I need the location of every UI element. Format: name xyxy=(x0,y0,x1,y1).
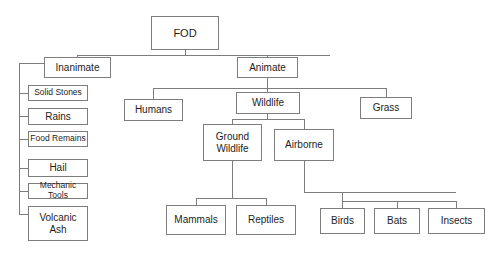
node-fod[interactable]: FOD xyxy=(151,16,219,50)
node-hail[interactable]: Hail xyxy=(28,159,88,177)
node-mechanic-tools[interactable]: Mechanic Tools xyxy=(28,183,88,199)
node-inanimate[interactable]: Inanimate xyxy=(44,57,111,78)
node-mammals[interactable]: Mammals xyxy=(166,205,226,235)
node-food-remains[interactable]: Food Remains xyxy=(28,131,88,147)
node-grass[interactable]: Grass xyxy=(360,97,412,119)
node-solid-stones[interactable]: Solid Stones xyxy=(28,85,88,101)
node-airborne[interactable]: Airborne xyxy=(274,129,334,161)
node-animate[interactable]: Animate xyxy=(237,57,298,78)
node-wildlife[interactable]: Wildlife xyxy=(236,92,300,114)
node-birds[interactable]: Birds xyxy=(320,208,365,234)
node-rains[interactable]: Rains xyxy=(28,108,88,125)
diagram-canvas: FOD Inanimate Animate Solid Stones Rains… xyxy=(0,0,495,253)
node-ground-wildlife[interactable]: Ground Wildlife xyxy=(203,124,262,161)
node-bats[interactable]: Bats xyxy=(374,208,420,234)
node-humans[interactable]: Humans xyxy=(124,99,183,121)
node-insects[interactable]: Insects xyxy=(428,208,485,234)
node-reptiles[interactable]: Reptiles xyxy=(236,205,296,235)
node-volcanic-ash[interactable]: Volcanic Ash xyxy=(28,206,88,241)
